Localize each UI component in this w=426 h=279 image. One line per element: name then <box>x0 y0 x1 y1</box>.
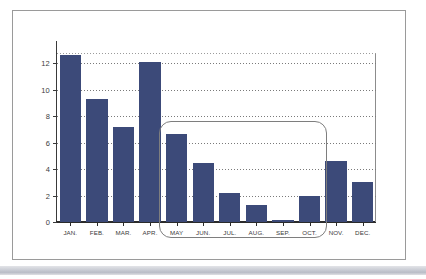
bar-group: JUL. <box>217 50 244 222</box>
bar[interactable] <box>60 55 81 222</box>
y-tick-mark <box>53 222 57 223</box>
bar[interactable] <box>352 182 373 222</box>
y-tick-label: 4 <box>46 165 50 174</box>
bar-series: JAN.FEB.MAR.APR.MAYJUN.JUL.AUG.SEP.OCT.N… <box>57 50 376 222</box>
x-tick-mark <box>97 222 98 226</box>
x-tick-label: SEP. <box>276 229 290 236</box>
y-tick-label: 10 <box>41 85 50 94</box>
bar-group: JAN. <box>57 50 84 222</box>
x-tick-label: JAN. <box>63 229 77 236</box>
bar[interactable] <box>166 134 187 222</box>
x-tick-label: AUG. <box>249 229 265 236</box>
x-tick-mark <box>177 222 178 226</box>
x-tick-label: DEC. <box>355 229 370 236</box>
bar[interactable] <box>86 99 107 222</box>
bar-group: AUG. <box>243 50 270 222</box>
x-tick-label: FEB. <box>90 229 104 236</box>
x-tick-label: JUL. <box>223 229 236 236</box>
bar-group: OCT. <box>296 50 323 222</box>
bar-group: SEP. <box>270 50 297 222</box>
bar[interactable] <box>299 196 320 222</box>
x-tick-label: MAR. <box>116 229 132 236</box>
bar[interactable] <box>246 205 267 222</box>
bar-group: FEB. <box>84 50 111 222</box>
x-tick-mark <box>363 222 364 226</box>
x-tick-mark <box>283 222 284 226</box>
x-tick-label: OCT. <box>302 229 317 236</box>
x-tick-label: MAY <box>170 229 183 236</box>
figure-canvas: 024681012 JAN.FEB.MAR.APR.MAYJUN.JUL.AUG… <box>0 0 426 279</box>
page-bottom-band <box>0 266 426 275</box>
x-tick-mark <box>123 222 124 226</box>
y-tick-label: 12 <box>41 59 50 68</box>
x-tick-mark <box>150 222 151 226</box>
plot-area: 024681012 JAN.FEB.MAR.APR.MAYJUN.JUL.AUG… <box>57 50 376 222</box>
x-tick-mark <box>256 222 257 226</box>
y-tick-label: 8 <box>46 112 50 121</box>
x-tick-label: APR. <box>143 229 158 236</box>
bar-group: DEC. <box>349 50 376 222</box>
x-tick-mark <box>336 222 337 226</box>
bar[interactable] <box>139 62 160 222</box>
x-tick-mark <box>70 222 71 226</box>
bar-group: NOV. <box>323 50 350 222</box>
bar-group: MAY <box>163 50 190 222</box>
bar[interactable] <box>219 193 240 222</box>
bar-group: JUN. <box>190 50 217 222</box>
y-tick-label: 6 <box>46 138 50 147</box>
x-tick-label: JUN. <box>196 229 210 236</box>
bar-chart: 024681012 JAN.FEB.MAR.APR.MAYJUN.JUL.AUG… <box>57 50 376 222</box>
bar[interactable] <box>325 161 346 222</box>
bar-group: APR. <box>137 50 164 222</box>
y-tick-label: 2 <box>46 191 50 200</box>
x-tick-mark <box>203 222 204 226</box>
x-tick-mark <box>310 222 311 226</box>
x-tick-label: NOV. <box>329 229 344 236</box>
bar-group: MAR. <box>110 50 137 222</box>
y-tick-label: 0 <box>46 218 50 227</box>
x-tick-mark <box>230 222 231 226</box>
bar[interactable] <box>113 127 134 222</box>
bar[interactable] <box>193 163 214 222</box>
